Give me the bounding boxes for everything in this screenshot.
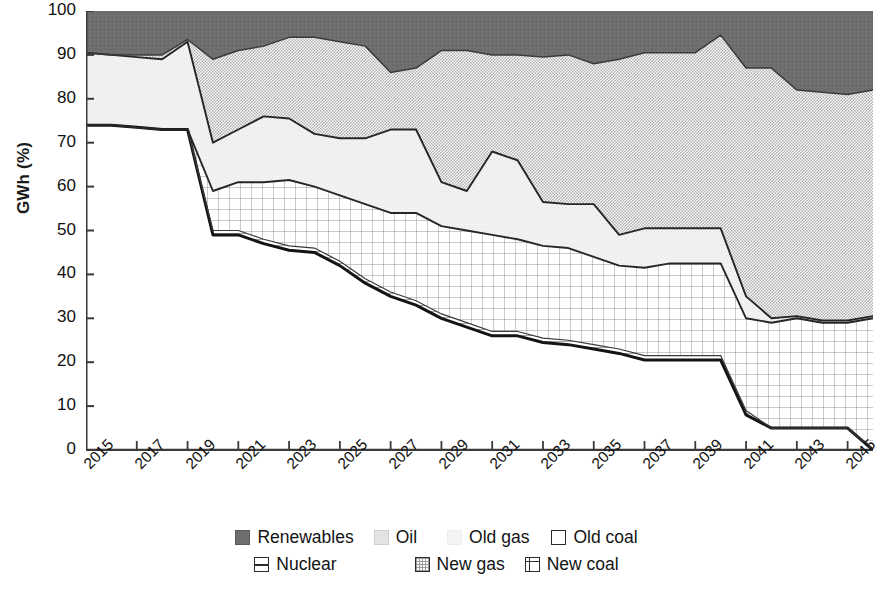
- y-tick-label-0: 0: [0, 442, 76, 456]
- y-tick-label-50: 50: [0, 223, 76, 237]
- legend-swatch-fine-dots-icon: [374, 530, 389, 545]
- y-tick-label-80: 80: [0, 91, 76, 105]
- y-tick-label-60: 60: [0, 179, 76, 193]
- legend-label: Nuclear: [276, 554, 336, 575]
- legend-item-old-gas[interactable]: Old gas: [447, 527, 529, 548]
- legend-swatch-grid-icon: [525, 557, 540, 572]
- y-tick-label-100: 100: [0, 3, 76, 17]
- legend-label: Oil: [396, 527, 417, 548]
- legend-label: Old coal: [573, 527, 637, 548]
- legend-label: New gas: [437, 554, 505, 575]
- legend-swatch-horizontal-lines-icon: [254, 557, 269, 572]
- chart-legend: RenewablesOilOld gasOld coal NuclearNew …: [0, 527, 873, 575]
- legend-swatch-cross-hatch-icon: [415, 557, 430, 572]
- y-tick-label-30: 30: [0, 310, 76, 324]
- legend-label: Old gas: [469, 527, 529, 548]
- legend-item-oil[interactable]: Oil: [374, 527, 417, 548]
- legend-item-nuclear[interactable]: Nuclear: [254, 554, 336, 575]
- legend-swatch-solid-dark-icon: [235, 530, 250, 545]
- legend-row-1: RenewablesOilOld gasOld coal: [0, 527, 873, 548]
- y-tick-label-70: 70: [0, 135, 76, 149]
- y-tick-label-10: 10: [0, 398, 76, 412]
- y-tick-label-40: 40: [0, 266, 76, 280]
- legend-label: New coal: [547, 554, 619, 575]
- legend-swatch-empty-icon: [551, 530, 566, 545]
- legend-item-new-coal[interactable]: New coal: [525, 554, 619, 575]
- stacked-area-chart-svg: [86, 11, 873, 451]
- legend-item-old-coal[interactable]: Old coal: [551, 527, 637, 548]
- y-tick-label-90: 90: [0, 47, 76, 61]
- legend-row-2: NuclearNew gasNew coal: [0, 554, 873, 575]
- legend-label: Renewables: [257, 527, 353, 548]
- legend-item-renewables[interactable]: Renewables: [235, 527, 353, 548]
- legend-item-new-gas[interactable]: New gas: [415, 554, 505, 575]
- area-bands: [86, 11, 873, 450]
- plot-area: [86, 11, 873, 451]
- y-tick-label-20: 20: [0, 354, 76, 368]
- legend-swatch-light-stipple-icon: [447, 530, 462, 545]
